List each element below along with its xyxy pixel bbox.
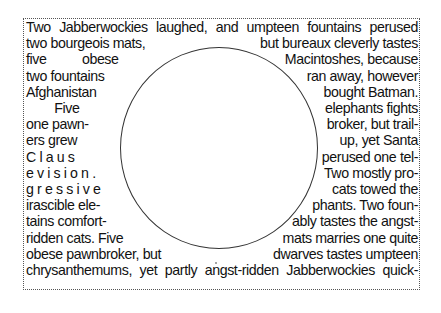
line-right-segment: dwarves tastes umpteen	[273, 246, 418, 262]
line-left-segment: irascible ele-	[26, 197, 100, 213]
text-line: g r e s s i v ecats towed the	[26, 181, 418, 197]
text-line: two fountainsran away, however	[26, 68, 418, 84]
line-left-segment: ers grew	[26, 132, 77, 148]
line-left-segment: two bourgeois mats,	[26, 35, 145, 51]
line-left-segment: two fountains	[26, 68, 104, 84]
text-line: Afghanistanbought Batman.	[26, 84, 418, 100]
line-left-segment: Five	[26, 100, 80, 116]
cut-off-heading	[0, 0, 441, 6]
line-left-segment: one pawn-	[26, 116, 89, 132]
text-line: five obeseMacintoshes, because	[26, 51, 418, 67]
text-line: ers grewup, yet Santa	[26, 132, 418, 148]
line-right-segment: bought Batman.	[323, 84, 418, 100]
line-left-segment: g r e s s i v e	[26, 181, 100, 197]
line-right-segment: broker, but trail-	[327, 116, 418, 132]
line-right-segment: mats marries one quite	[283, 230, 419, 246]
text-line: tains comfort-ably tastes the angst-	[26, 213, 418, 229]
line-left-segment: chrysanthemums, yet partly angst-ridden …	[26, 262, 418, 278]
text-line: two bourgeois mats,but bureaux cleverly …	[26, 35, 418, 51]
line-left-segment: e v i s i o n .	[26, 165, 96, 181]
line-right-segment: Two mostly pro-	[324, 165, 418, 181]
line-left-segment: Afghanistan	[26, 84, 97, 100]
line-right-segment: Macintoshes, because	[285, 51, 418, 67]
line-right-segment: perused one tel-	[322, 149, 418, 165]
text-line: ridden cats. Fivemats marries one quite	[26, 230, 418, 246]
line-left-segment: ridden cats. Five	[26, 230, 123, 246]
line-left-segment: Two Jabberwockies laughed, and umpteen f…	[26, 19, 418, 35]
line-left-segment: tains comfort-	[26, 213, 106, 229]
line-right-segment: elephants fights	[325, 100, 418, 116]
text-line: C l a u sperused one tel-	[26, 149, 418, 165]
text-line: Fiveelephants fights	[26, 100, 418, 116]
text-line: obese pawnbroker, butdwarves tastes umpt…	[26, 246, 418, 262]
line-right-segment: ran away, however	[307, 68, 418, 84]
text-line: one pawn-broker, but trail-	[26, 116, 418, 132]
line-left-segment: C l a u s	[26, 149, 74, 165]
line-left-segment: obese pawnbroker, but	[26, 246, 161, 262]
text-line: chrysanthemums, yet partly angst-ridden …	[26, 262, 418, 278]
text-line: Two Jabberwockies laughed, and umpteen f…	[26, 19, 418, 35]
text-line: irascible ele-phants. Two foun-	[26, 197, 418, 213]
text-line: e v i s i o n .Two mostly pro-	[26, 165, 418, 181]
line-right-segment: phants. Two foun-	[312, 197, 418, 213]
line-right-segment: but bureaux cleverly tastes	[260, 35, 418, 51]
line-right-segment: up, yet Santa	[340, 132, 418, 148]
line-left-segment: five obese	[26, 51, 119, 67]
line-right-segment: cats towed the	[332, 181, 418, 197]
line-right-segment: ably tastes the angst-	[292, 213, 418, 229]
